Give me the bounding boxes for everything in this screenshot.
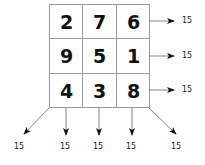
column-2-sum: 15 [93, 142, 103, 152]
diagonal-left-sum: 15 [14, 142, 24, 152]
cell-r3c3: 8 [117, 74, 150, 108]
cell-r1c3: 6 [117, 5, 150, 39]
cell-r3c2: 3 [83, 74, 116, 108]
row-2-sum: 15 [182, 51, 192, 61]
row-1-sum: 15 [182, 16, 192, 26]
diagonal-left-arrow-icon [24, 108, 49, 134]
cell-r1c2: 7 [83, 5, 116, 39]
column-3-sum: 15 [126, 142, 136, 152]
cell-r2c1: 9 [50, 39, 83, 73]
magic-square-diagram: 2 7 6 9 5 1 4 3 8 15 15 15 15 15 15 15 1… [0, 0, 205, 165]
diagonal-right-arrow-icon [149, 108, 176, 134]
cell-r3c1: 4 [50, 74, 83, 108]
row-3-sum: 15 [182, 85, 192, 95]
column-1-sum: 15 [60, 142, 70, 152]
diagonal-right-sum: 15 [171, 142, 181, 152]
cell-r2c2: 5 [83, 39, 116, 73]
cell-r2c3: 1 [117, 39, 150, 73]
cell-r1c1: 2 [50, 5, 83, 39]
